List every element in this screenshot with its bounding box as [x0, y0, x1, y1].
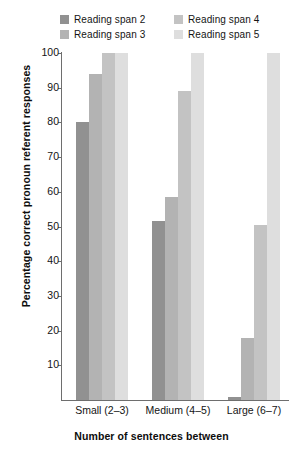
y-tick-label: 50 [47, 220, 59, 233]
bar-group-2 [152, 53, 204, 400]
x-category-label-3: Large (6–7) [209, 404, 299, 417]
bar [241, 338, 254, 400]
bar [102, 53, 115, 400]
bar [178, 91, 191, 400]
legend-label-reading-span-4: Reading span 4 [188, 14, 259, 25]
y-tick-label: 10 [47, 358, 59, 371]
bar-groups [62, 53, 288, 400]
bar [254, 225, 267, 400]
x-axis-line [61, 400, 289, 401]
legend-entry-reading-span-2: Reading span 2 [60, 12, 174, 26]
bar [115, 53, 128, 400]
y-tick-label: 70 [47, 150, 59, 163]
bar [165, 197, 178, 400]
y-tick-label: 100 [41, 46, 59, 59]
bar [267, 53, 280, 400]
legend-entry-reading-span-3: Reading span 3 [60, 27, 174, 41]
y-tick-label: 80 [47, 115, 59, 128]
legend-label-reading-span-3: Reading span 3 [74, 29, 145, 40]
legend-swatch-reading-span-2 [60, 15, 69, 24]
legend-swatch-reading-span-3 [60, 30, 69, 39]
bar [89, 74, 102, 400]
legend-entry-reading-span-5: Reading span 5 [174, 27, 298, 41]
y-tick-label: 40 [47, 254, 59, 267]
legend-label-reading-span-5: Reading span 5 [188, 29, 259, 40]
chart-legend: Reading span 2 Reading span 4 Reading sp… [60, 12, 300, 41]
y-tick-label: 20 [47, 324, 59, 337]
legend-swatch-reading-span-5 [174, 30, 183, 39]
plot-area: 102030405060708090100 [62, 53, 288, 400]
y-tick-label: 30 [47, 289, 59, 302]
legend-entry-reading-span-4: Reading span 4 [174, 12, 298, 26]
legend-swatch-reading-span-4 [174, 15, 183, 24]
bar [191, 53, 204, 400]
legend-label-reading-span-2: Reading span 2 [74, 14, 145, 25]
bar [152, 221, 165, 400]
y-tick-label: 90 [47, 81, 59, 94]
bar [76, 122, 89, 400]
bar-group-1 [76, 53, 128, 400]
bar-group-3 [228, 53, 280, 400]
x-axis-title: Number of sentences between [0, 430, 303, 442]
y-tick-label: 60 [47, 185, 59, 198]
y-axis-title: Percentage correct pronoun referent resp… [20, 36, 32, 336]
bar [228, 397, 241, 400]
